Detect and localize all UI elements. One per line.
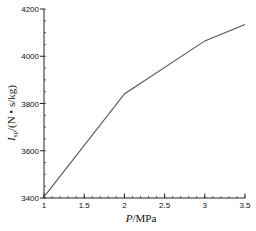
x-tick-label: 3.5 [239, 201, 251, 210]
y-tick-label: 3600 [21, 147, 39, 156]
x-tick-label: 2.5 [159, 201, 171, 210]
x-tick-labels: 11.522.533.5 [42, 201, 251, 210]
y-tick-label: 4200 [21, 5, 39, 14]
y-tick-label: 3800 [21, 100, 39, 109]
isp-data-line [44, 24, 245, 196]
x-tick-label: 2 [122, 201, 127, 210]
y-tick-label: 4000 [21, 52, 39, 61]
y-tick-labels: 34003600380040004200 [21, 5, 39, 203]
y-tick-label: 3400 [21, 194, 39, 203]
x-tick-label: 1.5 [79, 201, 91, 210]
isp-vs-pressure-chart: 34003600380040004200 11.522.533.5 P/MPa … [0, 0, 256, 231]
x-tick-label: 3 [203, 201, 208, 210]
x-axis-title: P/MPa [125, 212, 157, 224]
y-axis-title: Isp/(N • s/kg) [5, 85, 19, 142]
x-tick-label: 1 [42, 201, 47, 210]
